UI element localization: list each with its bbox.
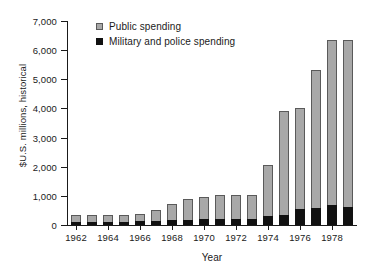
bar-segment-military: [135, 221, 145, 225]
legend-label: Public spending: [109, 21, 181, 32]
x-tick: [236, 226, 237, 230]
x-tick: [140, 226, 141, 230]
chart-legend: Public spending Military and police spen…: [96, 19, 235, 49]
bar-segment-military: [327, 205, 337, 225]
y-tick-label: 6,000: [33, 45, 57, 56]
bar-1972: [231, 195, 241, 225]
bar-1969: [183, 199, 193, 225]
bar-segment-public: [343, 40, 353, 225]
y-tick: [61, 79, 67, 80]
x-tick-label: 1970: [193, 232, 215, 243]
x-tick-label: 1968: [161, 232, 183, 243]
x-tick: [108, 226, 109, 230]
y-tick-label: 5,000: [33, 74, 57, 85]
y-tick-label: 7,000: [33, 16, 57, 27]
bar-segment-military: [167, 220, 177, 225]
y-tick-label: 2,000: [33, 161, 57, 172]
bar-1974: [263, 165, 273, 225]
x-tick-label: 1976: [289, 232, 311, 243]
bar-1976: [295, 108, 305, 225]
y-axis-title: $U.S. millions, historical: [17, 26, 28, 206]
x-tick-label: 1972: [225, 232, 247, 243]
bar-segment-military: [87, 222, 97, 225]
bar-1979: [343, 40, 353, 225]
plot-area: [68, 21, 356, 225]
x-tick: [204, 226, 205, 230]
bar-segment-military: [215, 219, 225, 225]
bar-segment-military: [295, 209, 305, 225]
bar-segment-military: [151, 221, 161, 225]
bar-1971: [215, 195, 225, 225]
bar-1963: [87, 215, 97, 225]
bar-1966: [135, 214, 145, 225]
legend-item-public: Public spending: [96, 19, 235, 34]
bar-1978: [327, 40, 337, 225]
bar-segment-public: [311, 70, 321, 225]
bar-1975: [279, 111, 289, 225]
y-tick: [61, 167, 67, 168]
y-tick: [61, 21, 67, 22]
x-tick: [76, 226, 77, 230]
bar-1962: [71, 215, 81, 225]
bar-1968: [167, 204, 177, 225]
bar-segment-public: [279, 111, 289, 225]
bar-1964: [103, 215, 113, 225]
x-tick: [268, 226, 269, 230]
x-tick-label: 1978: [321, 232, 343, 243]
x-tick-label: 1974: [257, 232, 279, 243]
bar-segment-military: [279, 215, 289, 225]
x-axis-title: Year: [68, 252, 356, 263]
gray-square-icon: [96, 23, 103, 30]
bar-segment-military: [247, 219, 257, 225]
bar-segment-military: [343, 207, 353, 225]
x-axis-line: [67, 225, 357, 226]
bar-1973: [247, 195, 257, 225]
x-tick-label: 1964: [97, 232, 119, 243]
x-tick: [300, 226, 301, 230]
y-tick: [61, 50, 67, 51]
bar-segment-military: [263, 216, 273, 225]
bar-segment-military: [71, 222, 81, 225]
legend-label: Military and police spending: [109, 36, 235, 47]
bar-segment-military: [231, 219, 241, 225]
bar-segment-public: [327, 40, 337, 225]
x-tick: [172, 226, 173, 230]
bar-segment-military: [199, 219, 209, 225]
bar-1970: [199, 197, 209, 225]
black-square-icon: [96, 38, 103, 45]
bar-1977: [311, 70, 321, 225]
bar-segment-military: [311, 208, 321, 225]
y-tick: [61, 225, 67, 226]
legend-item-military: Military and police spending: [96, 34, 235, 49]
y-tick: [61, 196, 67, 197]
y-tick: [61, 138, 67, 139]
bar-segment-military: [119, 222, 129, 225]
x-tick-label: 1962: [65, 232, 87, 243]
bar-1967: [151, 210, 161, 225]
x-tick-label: 1966: [129, 232, 151, 243]
bar-segment-public: [295, 108, 305, 225]
y-tick-label: 1,000: [33, 190, 57, 201]
bar-1965: [119, 215, 129, 225]
x-tick: [332, 226, 333, 230]
y-tick-label: 3,000: [33, 132, 57, 143]
bar-chart: $U.S. millions, historical 01,0002,0003,…: [0, 0, 366, 275]
bar-segment-military: [183, 220, 193, 225]
y-tick-label: 4,000: [33, 103, 57, 114]
bar-segment-military: [103, 222, 113, 225]
y-tick-label: 0: [52, 220, 57, 231]
y-tick: [61, 108, 67, 109]
